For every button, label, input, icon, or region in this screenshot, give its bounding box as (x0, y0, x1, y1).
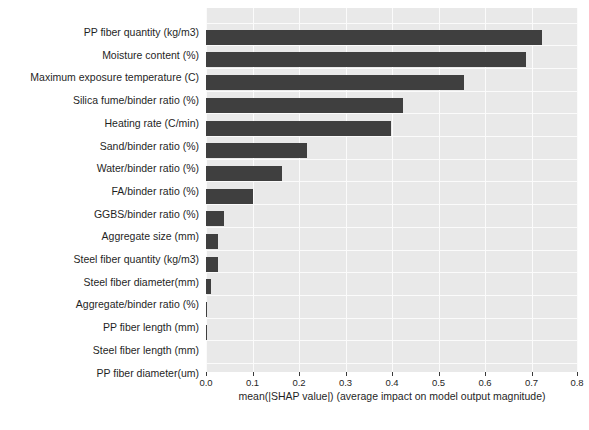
x-axis-tick (532, 372, 533, 376)
bar-row (206, 94, 578, 117)
bar-row (206, 321, 578, 344)
x-axis-tick-label: 0.4 (385, 377, 398, 388)
y-axis-category-labels: PP fiber quantity (kg/m3)Moisture conten… (0, 8, 203, 372)
y-axis-label: Aggregate size (mm) (0, 231, 203, 242)
y-axis-label: Aggregate/binder ratio (%) (0, 299, 203, 310)
y-axis-label: Steel fiber length (mm) (0, 345, 203, 356)
x-axis-tick (392, 372, 393, 376)
bar-row (206, 162, 578, 185)
x-axis-tick (253, 372, 254, 376)
y-axis-label: Silica fume/binder ratio (%) (0, 95, 203, 106)
bar (206, 279, 211, 294)
x-axis-tick-label: 0.6 (478, 377, 491, 388)
bar-row (206, 117, 578, 140)
gridline-horizontal (206, 23, 578, 24)
y-axis-label: Steel fiber quantity (kg/m3) (0, 254, 203, 265)
x-axis-tick (577, 372, 578, 376)
bar (206, 52, 526, 67)
bar (206, 325, 207, 340)
y-axis-label: Heating rate (C/min) (0, 118, 203, 129)
bar-row (206, 71, 578, 94)
y-axis-label: PP fiber diameter(um) (0, 368, 203, 379)
x-axis-tick-label: 0.1 (246, 377, 259, 388)
bar-row (206, 230, 578, 253)
bar-row (206, 276, 578, 299)
plot-area (206, 8, 578, 372)
bar-row (206, 185, 578, 208)
y-axis-label: PP fiber quantity (kg/m3) (0, 27, 203, 38)
y-axis-label: Steel fiber diameter(mm) (0, 277, 203, 288)
bar-row (206, 344, 578, 367)
bar (206, 257, 218, 272)
y-axis-label: Maximum exposure temperature (C) (0, 72, 203, 83)
y-axis-label: PP fiber length (mm) (0, 322, 203, 333)
x-axis-tick-label: 0.5 (432, 377, 445, 388)
bar (206, 211, 224, 226)
y-axis-label: Sand/binder ratio (%) (0, 141, 203, 152)
x-axis-tick (485, 372, 486, 376)
x-axis-tick-label: 0.0 (199, 377, 212, 388)
y-axis-label: Water/binder ratio (%) (0, 163, 203, 174)
bar (206, 143, 307, 158)
bar (206, 234, 218, 249)
y-axis-label: FA/binder ratio (%) (0, 186, 203, 197)
shap-feature-importance-figure: PP fiber quantity (kg/m3)Moisture conten… (0, 0, 589, 430)
bar-row (206, 298, 578, 321)
bar (206, 302, 207, 317)
bar-row (206, 253, 578, 276)
bar (206, 75, 464, 90)
bar-row (206, 208, 578, 231)
x-axis-tick-label: 0.8 (570, 377, 583, 388)
x-axis-tick (346, 372, 347, 376)
bar-row (206, 49, 578, 72)
bar-row (206, 140, 578, 163)
x-axis-title: mean(|SHAP value|) (average impact on mo… (206, 390, 578, 402)
x-axis-tick (299, 372, 300, 376)
y-axis-label: Moisture content (%) (0, 50, 203, 61)
bar (206, 98, 403, 113)
bar (206, 166, 282, 181)
x-axis-tick-label: 0.7 (525, 377, 538, 388)
y-axis-label: GGBS/binder ratio (%) (0, 209, 203, 220)
x-axis-tick-label: 0.2 (292, 377, 305, 388)
bar-row (206, 26, 578, 49)
x-axis-tick (439, 372, 440, 376)
bar (206, 121, 391, 136)
bar (206, 189, 253, 204)
x-axis-tick (206, 372, 207, 376)
x-axis-tick-label: 0.3 (339, 377, 352, 388)
bar (206, 30, 542, 45)
